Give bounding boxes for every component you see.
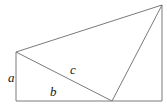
label-a: a [8, 70, 15, 85]
hypotenuse-c [16, 52, 112, 101]
label-c: c [70, 62, 76, 77]
upper-left-diagonal [16, 5, 162, 52]
geometry-diagram: a b c [0, 0, 167, 110]
label-b: b [50, 84, 57, 99]
inner-diagonal [112, 5, 162, 101]
figure-canvas: a b c [0, 0, 167, 110]
